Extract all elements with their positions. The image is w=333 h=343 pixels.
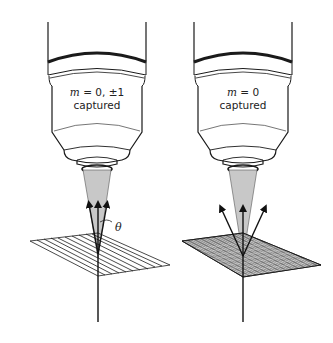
diffraction-objective-diagram: m = 0, ±1 captured θ xyxy=(0,0,333,343)
right-label-captured: captured xyxy=(220,99,267,111)
left-label-orders: m = 0, ±1 xyxy=(70,86,124,98)
right-panel: m = 0 captured xyxy=(170,22,332,322)
theta-label: θ xyxy=(115,221,122,234)
grating-fine xyxy=(170,226,332,296)
left-label-captured: captured xyxy=(74,99,121,111)
diffracted-beams-left xyxy=(89,204,107,322)
right-label-orders: m = 0 xyxy=(227,86,259,98)
left-panel: m = 0, ±1 captured θ xyxy=(30,22,170,322)
